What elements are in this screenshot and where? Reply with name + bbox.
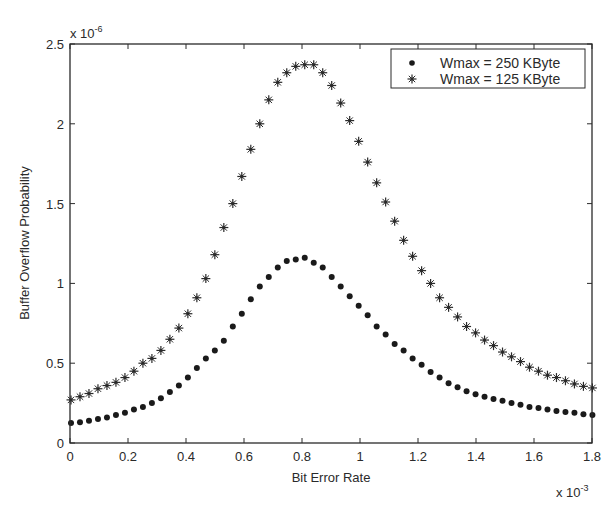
data-point	[453, 312, 462, 321]
data-point	[230, 323, 236, 329]
data-point	[282, 68, 291, 77]
data-point	[408, 252, 417, 261]
data-point	[392, 341, 398, 347]
data-point	[291, 62, 300, 71]
data-point	[183, 309, 192, 318]
x-tick-label: 1.2	[409, 449, 427, 464]
data-point	[264, 95, 273, 104]
series-dot	[68, 255, 595, 426]
data-point	[210, 250, 219, 259]
data-point	[491, 396, 497, 402]
data-point	[426, 279, 435, 288]
y-axis-title: Buffer Overflow Probability	[17, 166, 32, 320]
data-point	[95, 416, 101, 422]
data-point	[113, 412, 119, 418]
data-point	[248, 296, 254, 302]
data-point	[363, 158, 372, 167]
data-point	[399, 236, 408, 245]
data-point	[129, 367, 138, 376]
x-tick-label: 1.6	[525, 449, 543, 464]
data-point	[428, 369, 434, 375]
data-point	[239, 311, 245, 317]
data-point	[86, 418, 92, 424]
data-point	[372, 178, 381, 187]
data-point	[410, 355, 416, 361]
data-point	[266, 274, 272, 280]
y-tick-label: 0	[57, 436, 64, 451]
data-point	[535, 405, 541, 411]
data-point	[437, 375, 443, 381]
data-point	[507, 352, 516, 361]
data-point	[526, 404, 532, 410]
x-tick-label: 0.2	[119, 449, 137, 464]
x-tick-label: 0	[66, 449, 73, 464]
x-axis-title: Bit Error Rate	[292, 470, 371, 485]
data-point	[464, 388, 470, 394]
data-point	[122, 410, 128, 416]
data-point	[77, 419, 83, 425]
data-point	[347, 293, 353, 299]
dot-icon	[409, 60, 415, 66]
x-tick-label: 0.6	[235, 449, 253, 464]
data-point	[544, 406, 550, 412]
data-point	[318, 68, 327, 77]
data-point	[516, 357, 525, 366]
data-point	[571, 410, 577, 416]
star-marker	[408, 75, 417, 84]
data-point	[246, 145, 255, 154]
data-point	[131, 406, 137, 412]
data-point	[255, 119, 264, 128]
axis-ticks: 00.20.40.60.811.21.41.61.800.511.522.5	[46, 37, 601, 464]
data-point	[237, 172, 246, 181]
y-tick-label: 0.5	[46, 356, 64, 371]
data-point	[284, 258, 290, 264]
data-point	[365, 312, 371, 318]
data-point	[219, 223, 228, 232]
data-point	[102, 381, 111, 390]
data-point	[138, 359, 147, 368]
x-tick-label: 0.4	[177, 449, 195, 464]
y-tick-label: 1	[57, 276, 64, 291]
data-point	[203, 355, 209, 361]
data-point	[192, 293, 201, 302]
legend-label: Wmax = 250 KByte	[440, 55, 560, 71]
data-point	[534, 367, 543, 376]
y-tick-label: 2.5	[46, 37, 64, 52]
data-point	[336, 99, 345, 108]
data-point	[293, 256, 299, 262]
data-point	[165, 335, 174, 344]
data-point	[174, 324, 183, 333]
data-point	[201, 274, 210, 283]
data-point	[338, 284, 344, 290]
buffer-overflow-chart: 00.20.40.60.811.21.41.61.800.511.522.5 x…	[0, 0, 613, 507]
x-tick-label: 1.4	[467, 449, 485, 464]
data-point	[273, 78, 282, 87]
data-point	[140, 404, 146, 410]
data-point	[120, 373, 129, 382]
legend: Wmax = 250 KByte Wmax = 125 KByte	[391, 49, 585, 88]
data-point	[329, 274, 335, 280]
data-point	[68, 420, 74, 426]
data-point	[561, 376, 570, 385]
x-tick-label: 0.8	[293, 449, 311, 464]
data-point	[444, 303, 453, 312]
series-star	[67, 60, 597, 404]
data-point	[498, 348, 507, 357]
data-point	[525, 363, 534, 372]
data-point	[93, 384, 102, 393]
data-point	[401, 347, 407, 353]
data-point	[500, 398, 506, 404]
data-point	[552, 373, 561, 382]
data-point	[471, 328, 480, 337]
data-point	[156, 346, 165, 355]
data-point	[570, 379, 579, 388]
data-point	[111, 378, 120, 387]
data-point	[176, 383, 182, 389]
data-point	[390, 217, 399, 226]
x-scale-label: x 10-3	[556, 483, 589, 500]
data-point	[417, 266, 426, 275]
data-point	[345, 116, 354, 125]
data-point	[257, 284, 263, 290]
data-point	[149, 400, 155, 406]
data-point	[147, 354, 156, 363]
